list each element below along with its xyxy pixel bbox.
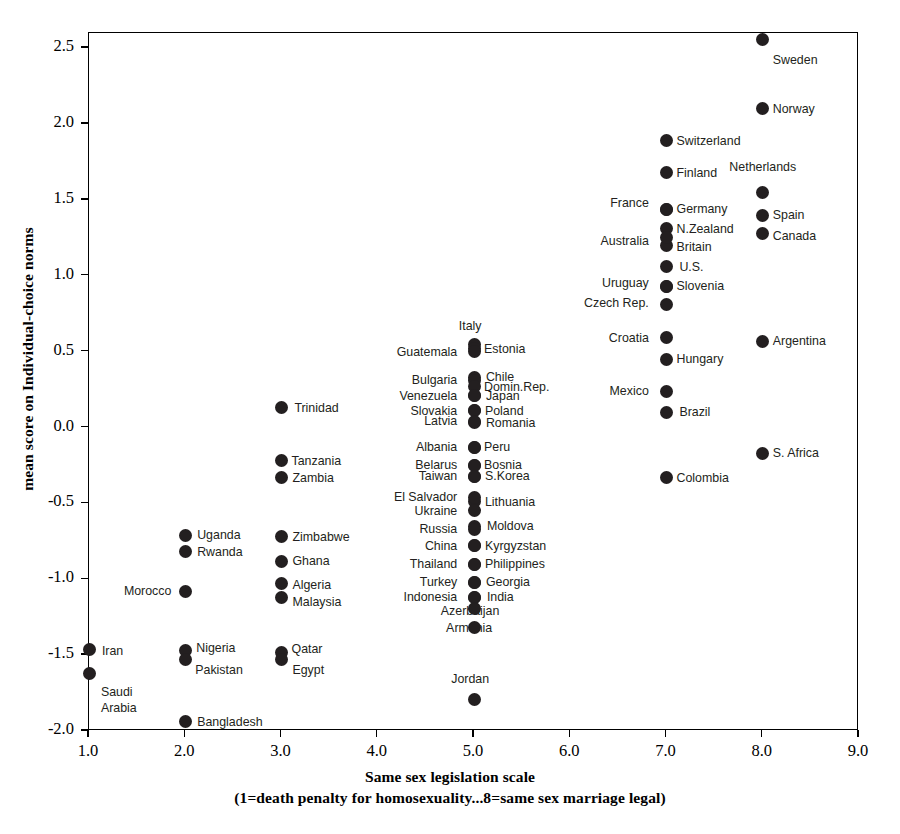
data-point: [179, 529, 192, 542]
data-point: [756, 102, 769, 115]
point-label: S. Africa: [773, 447, 819, 459]
data-point: [660, 331, 673, 344]
data-point: [275, 577, 288, 590]
data-point: [468, 504, 481, 517]
x-tick-label: 2.0: [160, 741, 208, 761]
point-label: Uruguay: [602, 277, 649, 289]
data-point: [660, 166, 673, 179]
point-label: Brazil: [679, 406, 710, 418]
x-axis-title: Same sex legislation scale: [0, 768, 900, 786]
point-label: Norway: [773, 103, 815, 115]
point-label: Zimbabwe: [292, 531, 349, 543]
y-tick-mark: [81, 198, 88, 199]
y-tick-label: 0.5: [22, 342, 74, 358]
point-label: Tanzania: [292, 455, 342, 467]
data-point: [660, 280, 673, 293]
y-tick-label: -2.0: [22, 721, 74, 737]
point-label: Czech Rep.: [584, 297, 649, 309]
x-tick-label: 4.0: [353, 741, 401, 761]
point-label: Morocco: [124, 585, 172, 597]
data-point: [275, 454, 288, 467]
point-label: Rwanda: [197, 546, 242, 558]
data-point: [179, 715, 192, 728]
point-label: El Salvador: [394, 491, 457, 503]
point-label: U.S.: [679, 260, 703, 272]
data-point: [275, 401, 288, 414]
data-point: [179, 545, 192, 558]
data-point: [660, 134, 673, 147]
y-tick-label: 2.5: [22, 38, 74, 54]
point-label: Japan: [486, 389, 520, 401]
point-label: Switzerland: [677, 135, 741, 147]
data-point: [179, 585, 192, 598]
point-label: S.Korea: [485, 470, 530, 482]
point-label: Armenia: [446, 622, 492, 634]
x-tick-mark: [376, 730, 377, 737]
data-point: [468, 523, 481, 536]
point-label: Lithuania: [485, 496, 535, 508]
data-point: [468, 576, 481, 589]
x-tick-label: 8.0: [738, 741, 786, 761]
y-tick-label: -0.5: [22, 493, 74, 509]
point-label: N.Zealand: [677, 223, 734, 235]
point-label: Trinidad: [294, 402, 338, 414]
x-tick-label: 1.0: [64, 741, 112, 761]
scatter-plot-figure: mean score on Individual-choice norms 2.…: [0, 0, 900, 834]
point-label: Canada: [773, 230, 816, 242]
point-label: Latvia: [424, 415, 457, 427]
point-label: Finland: [677, 166, 718, 178]
point-label: Kyrgyzstan: [485, 540, 546, 552]
data-point: [179, 653, 192, 666]
data-point: [468, 539, 481, 552]
point-label: Moldova: [487, 520, 534, 532]
data-point: [756, 227, 769, 240]
data-point: [756, 447, 769, 460]
data-point: [468, 693, 481, 706]
point-label: France: [610, 197, 649, 209]
y-tick-mark: [81, 46, 88, 47]
point-label: Albania: [416, 441, 457, 453]
x-tick-label: 9.0: [834, 741, 882, 761]
point-label: Arabia: [101, 702, 137, 714]
point-label: Bangladesh: [197, 716, 262, 728]
point-label: Taiwan: [419, 470, 458, 482]
point-label: China: [425, 540, 457, 552]
data-point: [660, 260, 673, 273]
data-point: [660, 385, 673, 398]
point-label: Netherlands: [729, 160, 796, 172]
point-label: Algeria: [292, 579, 331, 591]
point-label: Australia: [601, 235, 649, 247]
data-point: [756, 33, 769, 46]
x-tick-mark: [280, 730, 281, 737]
data-point: [468, 491, 481, 504]
y-tick-label: 2.0: [22, 114, 74, 130]
data-point: [275, 653, 288, 666]
x-tick-mark: [472, 730, 473, 737]
x-tick-label: 7.0: [642, 741, 690, 761]
point-label: Zambia: [292, 471, 333, 483]
point-label: Peru: [484, 441, 510, 453]
data-point: [468, 470, 481, 483]
point-label: Britain: [677, 241, 712, 253]
data-point: [468, 441, 481, 454]
point-label: Croatia: [609, 332, 649, 344]
point-label: Uganda: [197, 529, 240, 541]
x-tick-label: 3.0: [257, 741, 305, 761]
point-label: Iran: [102, 644, 123, 656]
y-tick-mark: [81, 502, 88, 503]
y-tick-label: 0.0: [22, 418, 74, 434]
point-label: Spain: [773, 209, 805, 221]
point-label: Malaysia: [292, 596, 341, 608]
point-label: Thailand: [410, 558, 458, 570]
data-point: [275, 555, 288, 568]
point-label: Qatar: [292, 643, 323, 655]
y-tick-mark: [81, 122, 88, 123]
point-label: Nigeria: [196, 641, 235, 653]
point-label: Philippines: [485, 558, 545, 570]
point-label: Saudi: [101, 685, 133, 697]
point-label: Russia: [419, 523, 457, 535]
x-tick-mark: [569, 730, 570, 737]
point-label: Romania: [486, 417, 536, 429]
x-tick-mark: [857, 730, 858, 737]
point-label: Guatemala: [397, 345, 458, 357]
